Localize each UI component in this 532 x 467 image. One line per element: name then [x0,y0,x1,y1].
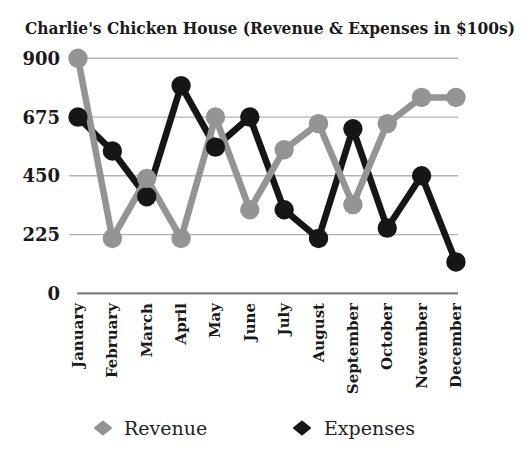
legend-label-expenses: Expenses [324,417,415,439]
chart-page: Charlie's Chicken House (Revenue & Expen… [0,0,532,467]
x-tick-march: March [138,303,156,357]
line-chart-canvas: Charlie's Chicken House (Revenue & Expen… [0,0,532,467]
data-point-expenses-august [309,229,328,248]
data-point-expenses-july [274,200,293,219]
data-point-expenses-may [206,137,225,156]
data-point-revenue-august [309,114,328,133]
data-point-revenue-september [343,195,362,214]
data-point-revenue-december [446,88,465,107]
data-point-expenses-september [343,119,362,138]
y-axis-tick-labels: 900 675 450 225 0 [22,48,60,304]
data-point-expenses-october [378,218,397,237]
data-point-expenses-january [68,107,87,126]
legend-label-revenue: Revenue [124,417,207,439]
data-point-revenue-july [274,140,293,159]
x-tick-november: November [413,302,431,389]
data-point-revenue-march [137,169,156,188]
data-point-expenses-june [240,107,259,126]
data-point-revenue-january [68,49,87,68]
x-tick-january: January [69,302,87,370]
data-point-expenses-december [446,252,465,271]
x-tick-october: October [378,302,396,370]
data-point-revenue-february [103,229,122,248]
data-point-expenses-february [103,141,122,160]
y-tick-675: 675 [22,107,60,128]
x-tick-december: December [447,302,465,388]
x-tick-september: September [344,302,362,394]
chart-title: Charlie's Chicken House (Revenue & Expen… [25,18,515,38]
data-point-expenses-april [171,76,190,95]
x-tick-august: August [310,303,328,363]
data-point-expenses-november [412,166,431,185]
x-axis-month-labels: January February March April May June Ju… [69,302,465,394]
data-point-revenue-november [412,88,431,107]
legend: Revenue Expenses [95,417,415,439]
data-point-revenue-april [171,229,190,248]
x-tick-february: February [103,302,121,378]
data-point-revenue-may [206,107,225,126]
y-tick-450: 450 [22,165,60,186]
x-tick-june: June [241,303,259,343]
legend-marker-revenue-icon [95,422,111,435]
data-point-revenue-october [378,114,397,133]
y-tick-225: 225 [22,224,60,245]
x-tick-april: April [172,303,190,346]
y-tick-900: 900 [22,48,60,69]
plot-series [68,49,465,272]
x-tick-may: May [206,302,224,338]
y-tick-0: 0 [47,283,60,304]
data-point-revenue-june [240,200,259,219]
legend-marker-expenses-icon [294,422,310,435]
x-tick-july: July [275,302,293,338]
data-point-expenses-march [137,187,156,206]
